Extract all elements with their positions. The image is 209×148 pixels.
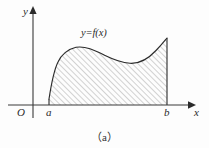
y-axis-arrowhead	[29, 6, 36, 14]
x-tick-label-b: b	[164, 107, 170, 118]
x-axis-label: x	[194, 107, 199, 118]
origin-label: O	[17, 107, 25, 118]
y-axis-label: y	[23, 6, 28, 17]
figure-caption: （a）	[0, 128, 209, 144]
shaded-region	[46, 33, 172, 108]
figure-container: y x O a b y=f(x) （a）	[0, 0, 209, 148]
y-axis	[29, 6, 36, 118]
x-tick-label-a: a	[46, 107, 52, 118]
function-label: y=f(x)	[81, 27, 107, 38]
plot-canvas	[0, 0, 209, 148]
